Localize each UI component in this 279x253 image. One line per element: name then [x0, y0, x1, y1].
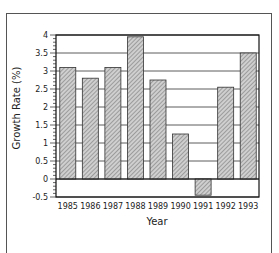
bar-1990 — [173, 134, 189, 179]
y-axis-ticks: 43.532.521.510.50-0.5 — [32, 31, 56, 202]
bars — [60, 37, 256, 195]
y-tick-label: 0 — [43, 175, 48, 184]
x-tick-label: 1992 — [215, 202, 235, 211]
y-tick-label: 3.5 — [35, 49, 48, 58]
x-tick-label: 1990 — [170, 202, 190, 211]
bar-1987 — [105, 67, 121, 179]
x-tick-label: 1993 — [238, 202, 258, 211]
bar-1991 — [195, 179, 211, 195]
y-tick-label: 2.5 — [35, 85, 48, 94]
x-tick-label: 1989 — [148, 202, 168, 211]
x-tick-label: 1991 — [193, 202, 213, 211]
y-tick-label: 3 — [43, 67, 48, 76]
y-tick-label: 4 — [43, 31, 48, 40]
bar-1986 — [82, 78, 98, 179]
y-tick-label: 1 — [43, 139, 48, 148]
bar-1988 — [127, 37, 143, 179]
x-tick-label: 1986 — [80, 202, 100, 211]
bar-1993 — [240, 53, 256, 179]
bar-1989 — [150, 80, 166, 179]
y-tick-label: 2 — [43, 103, 48, 112]
y-tick-label: -0.5 — [32, 193, 48, 202]
x-axis-title: Year — [145, 216, 168, 227]
y-tick-label: 1.5 — [35, 121, 48, 130]
y-tick-label: 0.5 — [35, 157, 48, 166]
y-axis-title: Growth Rate (%) — [11, 67, 22, 150]
x-tick-label: 1985 — [58, 202, 78, 211]
bar-1992 — [218, 87, 234, 179]
x-tick-label: 1987 — [103, 202, 123, 211]
x-tick-label: 1988 — [125, 202, 145, 211]
bar-1985 — [60, 67, 76, 179]
x-axis-labels: 198519861987198819891990199119921993 — [58, 202, 259, 211]
